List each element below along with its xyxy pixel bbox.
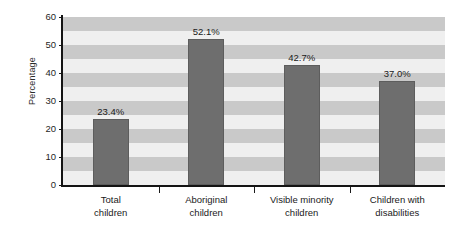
category-label-line: disabilities (370, 207, 425, 220)
x-axis-line (61, 185, 445, 187)
y-axis-tick-label: 0 (51, 179, 59, 191)
category-label-line: children (270, 207, 334, 220)
x-axis-separator-tick (350, 187, 351, 193)
bar-value-label: 23.4% (97, 106, 124, 117)
y-axis-tick-label: 50 (45, 39, 59, 51)
category-label-line: children (94, 207, 127, 220)
bar-value-label: 37.0% (384, 68, 411, 79)
category-label-line: Children with (370, 194, 425, 207)
bar-value-label: 52.1% (193, 26, 220, 37)
y-axis-ticks: 0102030405060 (0, 0, 64, 228)
y-axis-tick-label: 20 (45, 123, 59, 135)
category-label-line: Aboriginal (185, 194, 227, 207)
x-axis-category-label: Aboriginalchildren (185, 194, 227, 219)
bar-value-label: 42.7% (288, 52, 315, 63)
y-axis-tick-label: 30 (45, 95, 59, 107)
y-axis-tick-label: 40 (45, 67, 59, 79)
x-axis-category-label: Totalchildren (94, 194, 127, 219)
x-axis-category-label: Children withdisabilities (370, 194, 425, 219)
x-axis-separator-tick (254, 187, 255, 193)
category-label-line: children (185, 207, 227, 220)
y-axis-tick-label: 10 (45, 151, 59, 163)
x-axis-separator-tick (159, 187, 160, 193)
y-axis-line (61, 15, 63, 187)
category-label-line: Total (94, 194, 127, 207)
y-axis-tick-label: 60 (45, 11, 59, 23)
bar-chart: Percentage 0102030405060 23.4%52.1%42.7%… (0, 0, 464, 228)
category-label-line: Visible minority (270, 194, 334, 207)
x-axis-category-label: Visible minoritychildren (270, 194, 334, 219)
value-labels: 23.4%52.1%42.7%37.0% (63, 17, 445, 185)
category-labels: TotalchildrenAboriginalchildrenVisible m… (63, 194, 445, 228)
